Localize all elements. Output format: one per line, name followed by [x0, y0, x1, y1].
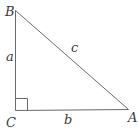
side-label-b: b: [64, 112, 72, 127]
vertex-label-a: A: [127, 110, 137, 125]
side-c-line: [16, 11, 129, 110]
side-label-c: c: [71, 40, 79, 55]
side-b-line: [16, 110, 129, 111]
side-label-a: a: [6, 49, 14, 64]
vertex-label-c: C: [6, 115, 16, 130]
vertex-label-b: B: [4, 4, 15, 19]
right-triangle-diagram: B C A a b c: [0, 0, 138, 135]
right-angle-marker: [16, 99, 28, 111]
